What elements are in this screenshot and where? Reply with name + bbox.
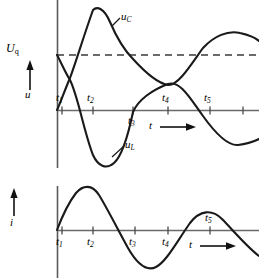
- upper-tick-label-t4: t4: [162, 92, 169, 104]
- lower-plot-axes: [10, 186, 259, 278]
- lower-t-axis-arrow: [200, 242, 236, 250]
- upper-t-axis-arrow: [160, 123, 196, 131]
- i-axis-label: i: [10, 217, 13, 228]
- upper-t-axis-label: t: [149, 120, 152, 131]
- curve-label-uc: uC: [121, 11, 131, 23]
- figure-canvas: Uq u t1 t2 t3 t4 t5 t uC uL i t1 t2 t3 t…: [0, 0, 259, 278]
- u-axis-arrow: [26, 60, 33, 90]
- i-axis-arrow: [10, 188, 17, 216]
- upper-tick-label-t2: t2: [87, 92, 94, 104]
- lower-tick-label-t3: t3: [129, 236, 136, 248]
- curve-i: [57, 187, 259, 268]
- lower-tick-label-t4: t4: [162, 236, 169, 248]
- curve-label-ul: uL: [125, 139, 135, 151]
- upper-tick-label-t5: t5: [204, 92, 211, 104]
- lower-t-axis-label: t: [189, 239, 192, 250]
- lower-tick-label-t1: t1: [56, 236, 63, 248]
- uq-axis-label: Uq: [6, 42, 19, 56]
- u-axis-label: u: [25, 89, 31, 100]
- upper-tick-label-t1: t1: [56, 92, 63, 104]
- upper-plot-axes: [26, 0, 259, 168]
- lower-tick-label-t2: t2: [87, 236, 94, 248]
- lower-tick-label-t5: t5: [205, 212, 212, 224]
- upper-tick-label-t3: t3: [128, 115, 135, 127]
- uc-leader-line: [112, 18, 120, 26]
